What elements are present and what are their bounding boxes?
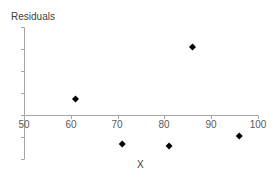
data-point-marker: [189, 44, 196, 51]
y-axis-title: Residuals: [11, 11, 55, 22]
data-point-marker: [119, 141, 126, 148]
x-tick-label: 80: [158, 119, 169, 130]
x-tick-label: 50: [18, 119, 29, 130]
x-tick-label: 70: [111, 119, 122, 130]
x-axis-title: X: [137, 159, 144, 170]
plot-area: [0, 0, 279, 180]
x-tick-label: 100: [250, 119, 267, 130]
data-point-marker: [236, 132, 243, 139]
x-tick-label: 90: [205, 119, 216, 130]
residual-plot: Residuals X 50 60 70 80 90 100: [0, 0, 279, 180]
x-tick-label: 60: [65, 119, 76, 130]
data-point-marker: [72, 95, 79, 102]
data-point-marker: [166, 143, 173, 150]
